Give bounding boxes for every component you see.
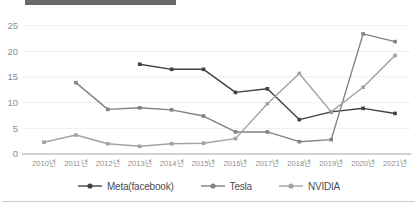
x-tick-label: 2021년 (383, 158, 407, 168)
data-point (202, 114, 206, 118)
data-point (202, 141, 206, 145)
x-tick-label: 2013년 (128, 158, 152, 168)
series-lines (44, 34, 395, 146)
data-point (393, 40, 397, 44)
data-point (234, 137, 238, 141)
x-tick-label: 2014년 (160, 158, 184, 168)
y-tick-label: 0 (13, 148, 18, 159)
data-point (138, 145, 142, 149)
data-point (361, 32, 365, 36)
gridlines (22, 26, 411, 129)
data-point (74, 81, 78, 85)
data-point (297, 118, 301, 122)
x-axis-tick-labels: 2010년2011년2012년2013년2014년2015년2016년2017년… (32, 158, 407, 168)
line-chart: 0510152025 2010년2011년2012년2013년2014년2015… (0, 6, 417, 176)
x-tick-label: 2010년 (32, 158, 56, 168)
legend-label: Meta(facebook) (107, 181, 174, 192)
data-point (106, 142, 110, 146)
data-point (393, 112, 397, 116)
y-axis-tick-labels: 0510152025 (7, 20, 18, 159)
x-tick-label: 2015년 (192, 158, 216, 168)
data-point (297, 72, 301, 76)
top-heading-bar (25, 0, 176, 5)
x-tick-label: 2019년 (319, 158, 343, 168)
legend-label: Tesla (230, 181, 252, 192)
y-tick-label: 10 (7, 97, 18, 108)
data-point (234, 91, 238, 95)
legend-item-nvidia[interactable]: NVIDIA (278, 181, 340, 192)
data-point (329, 138, 333, 142)
data-point (106, 108, 110, 112)
legend-marker-icon (77, 181, 103, 191)
x-tick-label: 2012년 (96, 158, 120, 168)
x-tick-label: 2018년 (287, 158, 311, 168)
legend-item-meta-facebook[interactable]: Meta(facebook) (77, 181, 174, 192)
y-tick-label: 20 (7, 46, 18, 57)
data-point (393, 54, 397, 58)
data-point (138, 62, 142, 66)
data-point (329, 110, 333, 114)
y-tick-label: 15 (7, 71, 18, 82)
series-markers (42, 32, 397, 148)
x-tick-label: 2017년 (255, 158, 279, 168)
data-point (170, 68, 174, 72)
chart-svg: 0510152025 2010년2011년2012년2013년2014년2015… (0, 6, 417, 176)
y-tick-label: 5 (13, 123, 18, 134)
data-point (74, 133, 78, 137)
data-point (266, 130, 270, 134)
legend-marker-icon (200, 181, 226, 191)
data-point (234, 130, 238, 134)
chart-page: 0510152025 2010년2011년2012년2013년2014년2015… (0, 0, 417, 210)
data-point (138, 106, 142, 110)
series-line-tesla (76, 34, 395, 142)
bottom-divider (2, 201, 415, 202)
x-tick-label: 2011년 (64, 158, 87, 168)
x-tick-label: 2020년 (351, 158, 375, 168)
legend-label: NVIDIA (308, 181, 340, 192)
data-point (266, 102, 270, 106)
x-tick-label: 2016년 (224, 158, 248, 168)
chart-legend: Meta(facebook)TeslaNVIDIA (0, 178, 417, 194)
y-tick-label: 25 (7, 20, 18, 31)
legend-item-tesla[interactable]: Tesla (200, 181, 252, 192)
legend-marker-icon (278, 181, 304, 191)
data-point (361, 85, 365, 89)
data-point (297, 140, 301, 144)
data-point (170, 142, 174, 146)
data-point (42, 140, 46, 144)
data-point (170, 108, 174, 112)
data-point (202, 68, 206, 72)
data-point (361, 107, 365, 111)
data-point (266, 87, 270, 91)
